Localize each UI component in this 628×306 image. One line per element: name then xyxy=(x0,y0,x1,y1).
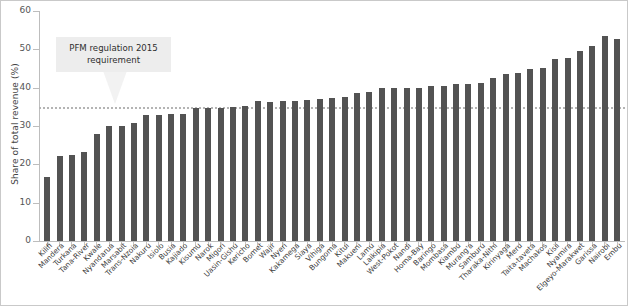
bar-slot xyxy=(301,11,313,241)
bar-slot xyxy=(462,11,474,241)
bar xyxy=(81,152,87,241)
bar-slot xyxy=(326,11,338,241)
bar xyxy=(119,126,125,241)
bar-slot xyxy=(239,11,251,241)
bar xyxy=(342,97,348,241)
bar-slot xyxy=(413,11,425,241)
bar xyxy=(317,99,323,241)
bar-slot xyxy=(351,11,363,241)
x-axis-labels: KilifiManderaTurkanaTana-RiverKwaleNyand… xyxy=(39,239,625,305)
bar-slot xyxy=(41,11,53,241)
bar xyxy=(156,115,162,242)
bar-slot xyxy=(190,11,202,241)
bar-slot xyxy=(487,11,499,241)
bar xyxy=(193,108,199,241)
bar xyxy=(490,78,496,241)
bar xyxy=(143,115,149,241)
bar-slot xyxy=(574,11,586,241)
bar-slot xyxy=(586,11,598,241)
bar xyxy=(565,58,571,241)
bar-slot xyxy=(276,11,288,241)
bar xyxy=(94,134,100,241)
y-tick-label: 60 xyxy=(5,5,31,15)
bar xyxy=(379,88,385,241)
bar xyxy=(465,84,471,241)
bar-slot xyxy=(338,11,350,241)
bar xyxy=(366,92,372,241)
y-tick-label: 10 xyxy=(5,197,31,207)
bar xyxy=(354,93,360,241)
bar xyxy=(552,59,558,241)
bar xyxy=(57,156,63,241)
bar-slot xyxy=(264,11,276,241)
y-tick-label: 20 xyxy=(5,158,31,168)
bar-slot xyxy=(202,11,214,241)
y-tick-label: 30 xyxy=(5,120,31,130)
bar-slot xyxy=(252,11,264,241)
bar xyxy=(304,100,310,241)
bar-slot xyxy=(400,11,412,241)
bar xyxy=(267,102,273,241)
callout-line-1: PFM regulation 2015 xyxy=(64,43,163,55)
bar xyxy=(404,88,410,241)
bar xyxy=(589,46,595,242)
bar-slot xyxy=(214,11,226,241)
y-tick-label: 0 xyxy=(5,235,31,245)
bar xyxy=(540,68,546,241)
bar-slot xyxy=(475,11,487,241)
bar-slot xyxy=(376,11,388,241)
bar xyxy=(292,101,298,241)
x-label-slot: Embu xyxy=(611,239,623,305)
bar-slot xyxy=(561,11,573,241)
bar xyxy=(614,39,620,241)
bar-slot xyxy=(537,11,549,241)
bar xyxy=(131,123,137,241)
bar-slot xyxy=(314,11,326,241)
bar xyxy=(329,98,335,241)
y-tick-label: 40 xyxy=(5,82,31,92)
bar-slot xyxy=(438,11,450,241)
bar-slot xyxy=(512,11,524,241)
bar xyxy=(230,107,236,241)
bar-slot xyxy=(227,11,239,241)
bar xyxy=(527,69,533,241)
bar xyxy=(416,88,422,241)
bar-slot xyxy=(388,11,400,241)
bar-slot xyxy=(524,11,536,241)
bar xyxy=(44,177,50,241)
bar xyxy=(168,114,174,241)
bar-slot xyxy=(599,11,611,241)
bar xyxy=(478,83,484,241)
bar xyxy=(255,101,261,241)
bar-slot xyxy=(499,11,511,241)
callout-pointer-icon xyxy=(102,68,128,104)
bar xyxy=(577,51,583,241)
bar xyxy=(106,126,112,241)
pfm-requirement-callout: PFM regulation 2015 requirement xyxy=(56,37,171,72)
bar-slot xyxy=(549,11,561,241)
callout-line-2: requirement xyxy=(64,55,163,67)
chart-figure: Share of total revenue (%) 0102030405060… xyxy=(0,0,628,306)
bar xyxy=(242,106,248,241)
bar-slot xyxy=(425,11,437,241)
bar xyxy=(180,114,186,241)
bar xyxy=(503,74,509,241)
bar xyxy=(391,88,397,241)
bar-slot xyxy=(611,11,623,241)
bar xyxy=(441,86,447,241)
bar-slot xyxy=(363,11,375,241)
bar xyxy=(602,36,608,241)
bar-slot xyxy=(177,11,189,241)
bar-slot xyxy=(450,11,462,241)
bar-slot xyxy=(289,11,301,241)
bar xyxy=(205,108,211,241)
bar xyxy=(69,155,75,241)
bar xyxy=(453,84,459,241)
y-tick-label: 50 xyxy=(5,43,31,53)
bar xyxy=(428,86,434,241)
bar xyxy=(280,101,286,241)
bar xyxy=(218,108,224,241)
bar xyxy=(515,73,521,241)
